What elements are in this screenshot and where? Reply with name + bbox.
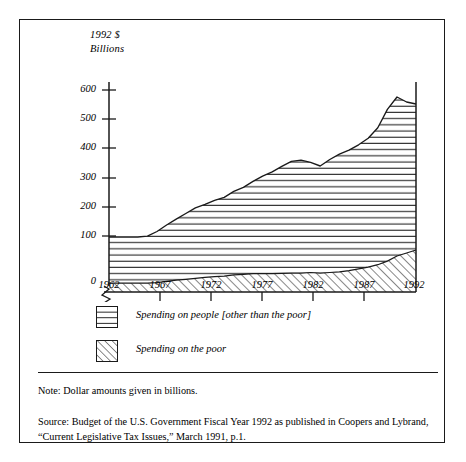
- series-area-people: [109, 97, 416, 292]
- legend-swatch-horizontal-lines: [96, 306, 118, 328]
- x-tick-1992: 1992: [394, 279, 434, 290]
- legend-label-people: Spending on people [other than the poor]: [136, 309, 311, 320]
- x-tick-1967: 1967: [140, 279, 180, 290]
- y-tick-600: 600: [62, 83, 96, 94]
- area-chart-plot: [20, 20, 446, 302]
- chart-legend: Spending on people [other than the poor]…: [20, 302, 446, 374]
- y-tick-400: 400: [62, 141, 96, 152]
- y-tick-200: 200: [62, 200, 96, 211]
- x-tick-1972: 1972: [191, 279, 231, 290]
- y-tick-100: 100: [62, 229, 96, 240]
- source-text: Source: Budget of the U.S. Government Fi…: [38, 414, 442, 444]
- figure-frame: 1992 $ Billions: [19, 19, 445, 443]
- y-tick-300: 300: [62, 171, 96, 182]
- y-tick-500: 500: [62, 112, 96, 123]
- chart-area: 1992 $ Billions: [20, 20, 446, 302]
- x-tick-1982: 1982: [293, 279, 333, 290]
- note-text: Note: Dollar amounts given in billions.: [38, 384, 198, 398]
- legend-swatch-diagonal-hatch: [96, 340, 118, 362]
- footnote-divider: [38, 372, 438, 373]
- x-tick-1977: 1977: [242, 279, 282, 290]
- x-tick-1962: 1962: [89, 279, 129, 290]
- legend-label-poor: Spending on the poor: [136, 343, 226, 354]
- x-tick-1987: 1987: [344, 279, 384, 290]
- x-axis-ticks: [160, 292, 364, 301]
